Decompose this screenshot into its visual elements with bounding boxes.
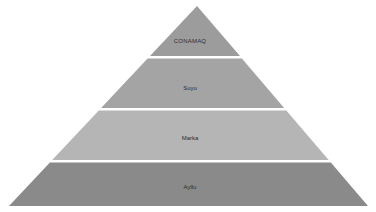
pyramid-level-2-shape (101, 59, 284, 109)
pyramid-figure: CONAMAQ Suyu Marka Ayllu (0, 0, 376, 212)
pyramid-diagram: CONAMAQ Suyu Marka Ayllu (0, 0, 376, 212)
pyramid-level-1-shape (150, 6, 240, 56)
pyramid-level-1-label: CONAMAQ (174, 38, 207, 44)
pyramid-level-3-label: Marka (182, 135, 199, 141)
pyramid-level-4-label: Ayllu (184, 184, 197, 190)
pyramid-level-2-label: Suyu (183, 85, 197, 91)
